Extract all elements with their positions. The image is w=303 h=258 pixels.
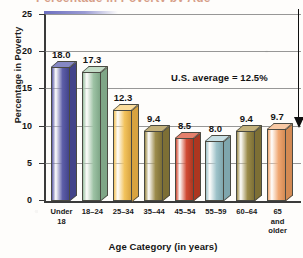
bar-front-0	[51, 67, 70, 201]
bar-3: 9.4	[144, 131, 163, 201]
bar-1: 17.3	[82, 72, 101, 201]
bar-front-1	[82, 72, 101, 201]
bar-side-0	[70, 61, 77, 201]
y-axis-line	[44, 11, 46, 203]
category-label-1: 18–24	[77, 207, 108, 217]
bar-value-label-2: 12.3	[114, 92, 133, 103]
bar-front-4	[175, 138, 194, 201]
gridline-20	[44, 51, 301, 52]
bar-value-label-1: 17.3	[83, 54, 102, 65]
y-tick-5: 5	[39, 163, 45, 164]
bar-side-7	[286, 123, 293, 201]
bar-front-7	[267, 129, 286, 201]
arrow-shaft	[298, 9, 299, 121]
bar-side-5	[224, 136, 231, 201]
y-axis-title: Percentage in Poverty	[13, 0, 23, 155]
bar-value-label-6: 9.4	[240, 113, 253, 124]
bar-front-3	[144, 131, 163, 201]
gridline-25	[44, 14, 301, 15]
x-axis-line	[44, 201, 301, 203]
category-label-3: 35–44	[139, 207, 170, 217]
category-label-6: 60–64	[231, 207, 262, 217]
category-label-0: Under 18	[46, 207, 77, 226]
y-tick-25: 25	[39, 14, 45, 15]
bar-value-label-0: 18.0	[52, 49, 71, 60]
bar-5: 8.0	[205, 141, 224, 201]
bar-value-label-3: 9.4	[147, 113, 160, 124]
y-tick-label-15: 15	[22, 83, 32, 93]
clipped-chart-title: Percentage in Poverty by Age	[36, 0, 266, 2]
category-label-4: 45–54	[170, 207, 201, 217]
bar-front-6	[236, 131, 255, 201]
bar-4: 8.5	[175, 138, 194, 201]
y-tick-label-25: 25	[22, 9, 32, 19]
bar-side-6	[255, 125, 262, 201]
bar-side-4	[194, 132, 201, 201]
down-arrow-icon	[293, 9, 303, 133]
bar-side-1	[101, 66, 108, 201]
y-tick-label-20: 20	[22, 46, 32, 56]
y-tick-label-0: 0	[27, 195, 32, 205]
bar-0: 18.0	[51, 67, 70, 201]
plot-area: 0510152025 18.017.312.39.48.58.09.49.7 U…	[44, 13, 301, 203]
arrow-head	[294, 117, 303, 128]
bar-7: 9.7	[267, 129, 286, 201]
us-average-annotation: U.S. average = 12.5%	[171, 72, 268, 83]
bar-value-label-4: 8.5	[178, 120, 191, 131]
category-label-5: 55–59	[200, 207, 231, 217]
bar-side-3	[163, 125, 170, 201]
bar-value-label-7: 9.7	[271, 111, 284, 122]
bar-front-5	[205, 141, 224, 201]
y-tick-0: 0	[39, 200, 45, 201]
y-tick-15: 15	[39, 88, 45, 89]
bar-value-label-5: 8.0	[209, 123, 222, 134]
y-tick-label-5: 5	[27, 158, 32, 168]
bar-side-2	[132, 104, 139, 201]
bar-front-2	[113, 110, 132, 202]
y-tick-label-10: 10	[22, 121, 32, 131]
category-label-2: 25–34	[108, 207, 139, 217]
y-tick-10: 10	[39, 126, 45, 127]
bar-6: 9.4	[236, 131, 255, 201]
category-label-7: 65 and older	[262, 207, 293, 236]
x-axis-title: Age Category (in years)	[58, 241, 268, 252]
bar-2: 12.3	[113, 110, 132, 202]
y-tick-20: 20	[39, 51, 45, 52]
